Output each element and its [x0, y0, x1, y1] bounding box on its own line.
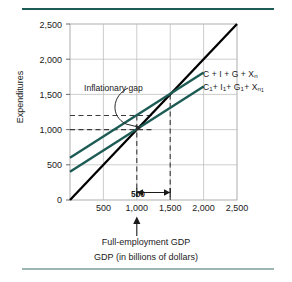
legend-label-aggregate-expenditures: C + I + G + Xn — [203, 69, 258, 79]
legend-label-2-x-subscript: n1 — [257, 85, 263, 92]
series-45-degree-line — [70, 24, 237, 200]
figure-container: Expenditures 2,500 2,000 1,500 1,000 500… — [0, 0, 292, 282]
inflationary-gap-arrow-curve — [115, 88, 128, 124]
bottom-rule-divider — [22, 268, 274, 270]
legend-label-aggregate-expenditures-1: C1+ I1+ G1+ Xn1 — [203, 82, 264, 93]
gap-measure-arrowhead-right — [164, 189, 170, 195]
legend-label-2-g: + G — [226, 82, 240, 92]
legend-label-1-text: C + I + G + X — [203, 69, 254, 79]
x-tick-2500: 2,500 — [217, 203, 257, 213]
legend-label-2-x: + X — [244, 82, 257, 92]
legend-label-1-subscript: n — [254, 72, 258, 79]
annotation-inflationary-gap: Inflationary gap — [84, 83, 143, 93]
legend-label-2-x-subscript-1: 1 — [261, 87, 264, 93]
legend-label-2-i: + I — [213, 82, 223, 92]
x-axis-label: GDP (in billions of dollars) — [40, 252, 252, 262]
annotation-gap-value: 500 — [131, 189, 145, 199]
annotation-full-employment-gdp: Full-employment GDP — [46, 237, 246, 247]
full-employment-pointer-arrowhead — [133, 217, 140, 225]
